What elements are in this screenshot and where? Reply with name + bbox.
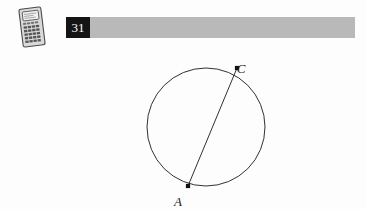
circle-outline (147, 68, 265, 186)
circle-diagram: A C (0, 40, 366, 209)
problem-number-badge: 31 (66, 17, 90, 38)
point-label-c: C (237, 61, 246, 76)
problem-page: 31 A C (0, 0, 366, 209)
point-label-a: A (173, 194, 182, 209)
chord-ac (188, 68, 237, 186)
header-rule-bar (90, 17, 355, 38)
problem-header: 31 (66, 17, 355, 38)
point-marker-a (186, 184, 190, 188)
